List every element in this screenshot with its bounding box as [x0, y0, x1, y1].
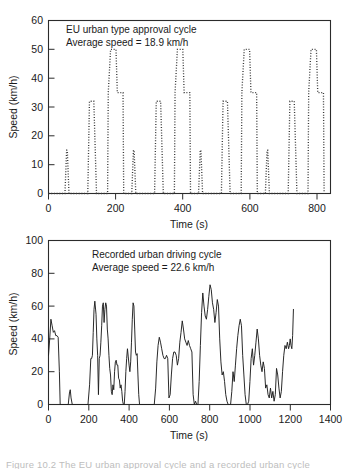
figure-caption-text: Figure 10.2 The EU urban approval cycle … [0, 459, 358, 469]
y-tick-60: 60 [31, 300, 43, 312]
recorded-cycle-svg: 0 20 40 60 80 100 0 200 [0, 228, 358, 442]
x-tick-1400: 1400 [319, 413, 343, 425]
y-tick-10: 10 [31, 158, 43, 170]
chart-eu-urban-type-approval-cycle: 0 10 20 30 40 50 60 0 200 400 [0, 0, 358, 234]
eu-cycle-svg: 0 10 20 30 40 50 60 0 200 400 [0, 0, 358, 234]
x-tick-0: 0 [46, 202, 52, 214]
x-tick-0: 0 [46, 413, 52, 425]
y-tick-80: 80 [31, 267, 43, 279]
y-tick-40: 40 [31, 332, 43, 344]
chart-recorded-urban-driving-cycle: 0 20 40 60 80 100 0 200 [0, 228, 358, 442]
figure-caption: Figure 10.2 The EU urban approval cycle … [0, 452, 358, 469]
x-tick-200: 200 [80, 413, 98, 425]
x-tick-600: 600 [161, 413, 179, 425]
y-tick-40: 40 [31, 72, 43, 84]
x-axis-bottom: 0 200 400 600 800 1000 1200 1400 [46, 405, 343, 426]
annotation-line-2: Average speed = 18.9 km/h [66, 37, 188, 48]
y-tick-60: 60 [31, 14, 43, 26]
x-tick-800: 800 [308, 202, 326, 214]
y-axis-title: Speed (km/h) [7, 292, 19, 355]
y-tick-30: 30 [31, 101, 43, 113]
y-tick-0: 0 [37, 398, 43, 410]
y-tick-0: 0 [37, 187, 43, 199]
annotation-line-1: EU urban type approval cycle [66, 24, 197, 35]
x-tick-1200: 1200 [279, 413, 303, 425]
figure-container: 0 10 20 30 40 50 60 0 200 400 [0, 0, 358, 469]
annotation-line-1: Recorded urban driving cycle [92, 249, 222, 260]
x-tick-1000: 1000 [238, 413, 262, 425]
x-axis-title: Time (s) [170, 429, 208, 441]
x-tick-400: 400 [120, 413, 138, 425]
x-tick-800: 800 [201, 413, 219, 425]
x-tick-400: 400 [174, 202, 192, 214]
x-tick-200: 200 [107, 202, 125, 214]
x-tick-600: 600 [241, 202, 259, 214]
y-axis-title: Speed (km/h) [7, 75, 19, 138]
annotation-line-2: Average speed = 22.6 km/h [92, 262, 214, 273]
y-tick-20: 20 [31, 365, 43, 377]
x-axis-top: 0 200 400 600 800 [46, 194, 326, 215]
y-tick-100: 100 [25, 234, 43, 246]
y-tick-20: 20 [31, 129, 43, 141]
y-tick-50: 50 [31, 43, 43, 55]
